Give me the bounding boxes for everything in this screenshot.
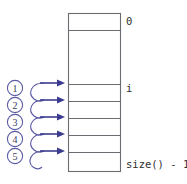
step-circle-group: 1 2 3 4 5 [7,80,22,163]
step-number: 2 [13,100,18,111]
cell-arrow-head [57,97,65,104]
arrow-group [40,80,65,155]
array-box [69,14,121,172]
step-marker-2: 2 [7,97,22,112]
step-number: 3 [13,117,18,128]
index-label-group: 0 i size() - 1 [126,15,187,170]
loop-curve-group [30,83,44,169]
loop-curve [31,134,44,152]
step-marker-1: 1 [7,80,22,95]
cell-arrow-head [57,114,65,121]
loop-curve [31,83,44,101]
index-label-i: i [126,82,132,94]
step-marker-3: 3 [7,114,22,129]
array-traversal-diagram: 1 2 3 4 5 0 i size() - 1 [0,0,187,184]
loop-curve [30,151,44,169]
step-number: 4 [13,134,18,145]
step-number: 1 [13,83,18,94]
step-marker-4: 4 [7,131,22,146]
step-number: 5 [13,151,18,162]
cell-arrow-head [57,80,65,87]
index-label-size-minus-one: size() - 1 [126,158,187,170]
loop-curve [31,117,44,135]
step-marker-5: 5 [7,148,22,163]
cell-arrow-head [57,148,65,155]
loop-curve [31,100,44,118]
index-label-zero: 0 [126,15,132,27]
diagram-canvas: 1 2 3 4 5 0 i size() - 1 [0,0,187,184]
cell-arrow-head [57,131,65,138]
